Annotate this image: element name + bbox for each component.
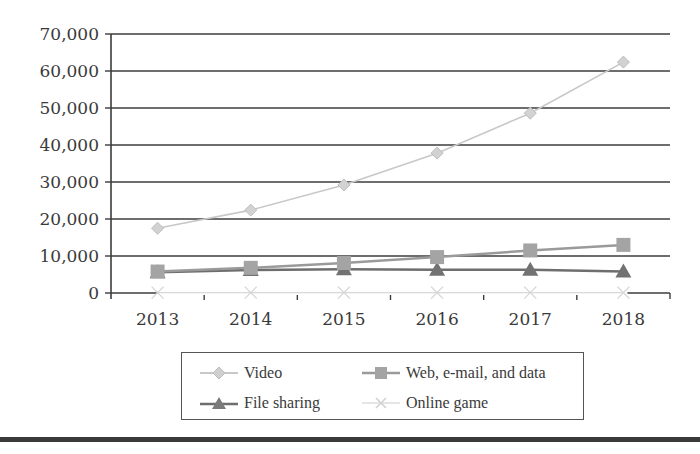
legend-item-file-sharing: File sharing: [200, 391, 320, 415]
square-marker-icon: [362, 365, 400, 381]
legend-item-web: Web, e-mail, and data: [362, 361, 546, 385]
legend-label: Video: [244, 364, 282, 382]
legend: Video Web, e-mail, and data File sharing…: [181, 352, 584, 420]
x-tick-label: 2017: [509, 309, 552, 329]
legend-item-online-game: Online game: [362, 391, 488, 415]
y-tick-label: 0: [88, 283, 99, 303]
x-axis-ticks: 201320142015201620172018: [136, 309, 645, 329]
x-tick-label: 2016: [415, 309, 458, 329]
gridlines: [111, 34, 670, 256]
y-tick-label: 40,000: [40, 135, 99, 155]
y-axis-ticks: 010,00020,00030,00040,00050,00060,00070,…: [40, 24, 111, 303]
triangle-marker-icon: [200, 395, 238, 411]
x-marker-icon: [362, 395, 400, 411]
y-tick-label: 10,000: [40, 246, 99, 266]
series-web-e-mail-and-data: [151, 238, 631, 279]
legend-item-video: Video: [200, 361, 282, 385]
x-tick-label: 2014: [229, 309, 272, 329]
x-tick-label: 2013: [136, 309, 179, 329]
x-tick-label: 2015: [322, 309, 365, 329]
y-tick-label: 50,000: [40, 98, 99, 118]
y-tick-label: 20,000: [40, 209, 99, 229]
x-tick-label: 2018: [602, 309, 645, 329]
y-tick-label: 70,000: [40, 24, 99, 44]
y-tick-label: 60,000: [40, 61, 99, 81]
legend-label: File sharing: [244, 394, 320, 412]
legend-label: Online game: [406, 394, 488, 412]
bottom-divider: [0, 437, 700, 442]
legend-label: Web, e-mail, and data: [406, 364, 546, 382]
diamond-marker-icon: [200, 365, 238, 381]
y-tick-label: 30,000: [40, 172, 99, 192]
data-series: [150, 56, 632, 299]
